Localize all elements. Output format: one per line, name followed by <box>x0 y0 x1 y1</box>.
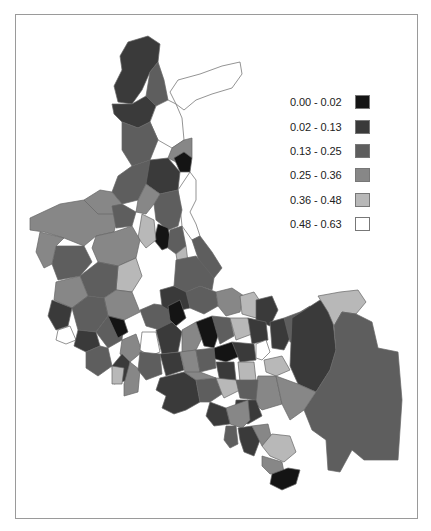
map-region <box>138 352 162 380</box>
legend-item: 0.25 - 0.36 <box>290 163 370 187</box>
choropleth-map <box>0 0 431 531</box>
legend-swatch <box>355 168 370 182</box>
map-legend: 0.00 - 0.02 0.02 - 0.13 0.13 - 0.25 0.25… <box>290 90 370 236</box>
map-region <box>236 380 258 400</box>
map-region <box>170 62 242 110</box>
legend-swatch <box>355 120 370 134</box>
legend-item: 0.00 - 0.02 <box>290 90 370 114</box>
legend-label: 0.25 - 0.36 <box>290 169 342 181</box>
map-region <box>196 348 216 372</box>
map-region <box>104 290 140 320</box>
legend-item: 0.02 - 0.13 <box>290 114 370 138</box>
legend-label: 0.48 - 0.63 <box>290 218 342 230</box>
map-region <box>216 288 244 316</box>
legend-label: 0.00 - 0.02 <box>290 96 342 108</box>
map-region <box>112 204 136 228</box>
legend-swatch <box>355 144 370 158</box>
map-region <box>138 214 156 248</box>
legend-swatch <box>355 95 370 109</box>
map-region <box>224 426 238 448</box>
map-region <box>264 356 290 376</box>
legend-label: 0.02 - 0.13 <box>290 121 342 133</box>
map-region <box>112 366 124 384</box>
legend-item: 0.48 - 0.63 <box>290 212 370 236</box>
legend-label: 0.13 - 0.25 <box>290 145 342 157</box>
map-region <box>206 402 230 426</box>
legend-item: 0.13 - 0.25 <box>290 139 370 163</box>
map-region <box>238 362 256 382</box>
legend-swatch <box>355 193 370 207</box>
legend-swatch <box>355 217 370 231</box>
legend-item: 0.36 - 0.48 <box>290 188 370 212</box>
map-region <box>86 346 112 376</box>
map-region <box>256 340 270 360</box>
map-region <box>160 352 184 376</box>
legend-label: 0.36 - 0.48 <box>290 194 342 206</box>
